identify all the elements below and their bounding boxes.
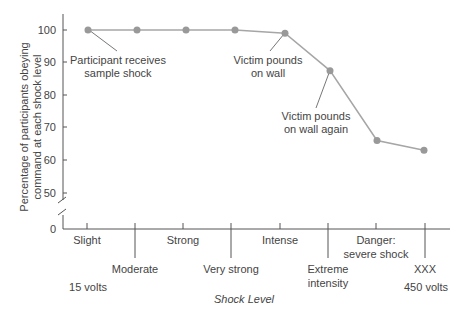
series-markers — [85, 27, 428, 154]
x-axis-label: Shock Level — [214, 293, 274, 305]
y-axis — [58, 14, 67, 229]
y-tick-0: 0 — [50, 223, 56, 235]
data-point — [374, 137, 381, 144]
svg-text:sample shock: sample shock — [84, 67, 152, 79]
annotation-pounds-wall: Victim pounds on wall — [234, 54, 303, 79]
y-tick-90: 90 — [44, 56, 56, 68]
data-point — [85, 27, 92, 34]
annotation-sample-shock: Participant receives sample shock — [70, 54, 166, 79]
category-danger-line1: Danger: — [356, 234, 395, 246]
svg-text:Victim pounds: Victim pounds — [234, 54, 303, 66]
svg-text:on wall: on wall — [251, 67, 285, 79]
voltage-end: 450 volts — [404, 281, 449, 293]
category-intense: Intense — [262, 234, 298, 246]
category-xxx: XXX — [414, 263, 437, 275]
data-point — [282, 30, 289, 37]
svg-text:on wall again: on wall again — [284, 123, 348, 135]
category-extreme-line1: Extreme — [308, 263, 349, 275]
category-danger-line2: severe shock — [344, 248, 409, 260]
data-point — [232, 27, 239, 34]
y-tick-80: 80 — [44, 89, 56, 101]
y-tick-70: 70 — [44, 121, 56, 133]
data-point — [327, 67, 334, 74]
category-extreme-line2: intensity — [308, 277, 349, 289]
y-axis-label: Percentage of participants obeying comma… — [18, 42, 43, 211]
data-point — [183, 27, 190, 34]
x-category-labels: Slight Strong Intense Danger: severe sho… — [69, 234, 448, 293]
y-tick-60: 60 — [44, 154, 56, 166]
category-slight: Slight — [73, 234, 101, 246]
annotation-pounds-wall-again: Victim pounds on wall again — [282, 110, 351, 135]
voltage-start: 15 volts — [69, 281, 107, 293]
svg-text:Percentage of participants obe: Percentage of participants obeying — [18, 42, 30, 211]
obedience-line-chart: 100 90 80 70 60 50 0 Percentage of parti… — [0, 0, 460, 327]
category-strong: Strong — [167, 234, 199, 246]
data-point — [134, 27, 141, 34]
y-tick-50: 50 — [44, 187, 56, 199]
svg-text:command at each shock level: command at each shock level — [31, 55, 43, 200]
category-very-strong: Very strong — [203, 263, 259, 275]
series-line — [88, 30, 424, 150]
data-point — [421, 147, 428, 154]
category-moderate: Moderate — [112, 263, 158, 275]
svg-text:Participant receives: Participant receives — [70, 54, 166, 66]
y-tick-100: 100 — [38, 24, 56, 36]
svg-text:Victim pounds: Victim pounds — [282, 110, 351, 122]
